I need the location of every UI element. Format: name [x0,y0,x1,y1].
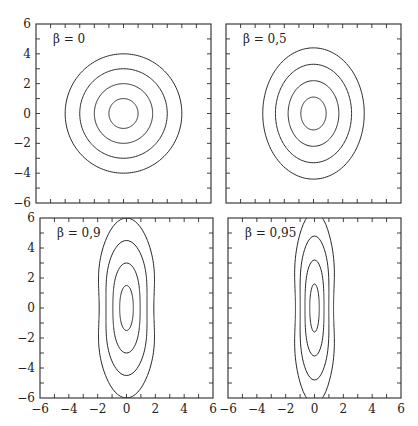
x-tick-label: −6 [31,402,49,416]
y-tick-label: −2 [17,331,35,345]
contour-level-3 [106,241,147,376]
y-tick-label: 6 [23,17,31,31]
x-tick-label: −4 [248,402,266,416]
beta-annotation: β = 0 [53,32,85,46]
x-tick-label: 2 [340,402,348,416]
panel-3: −6−4−20246−6−4−20246β = 0,9 [17,211,217,416]
y-tick-label: 0 [27,301,35,315]
x-tick-label: −2 [89,402,107,416]
contour-level-4 [65,54,182,173]
y-tick-label: 0 [23,107,31,121]
y-tick-label: −4 [17,361,35,375]
y-tick-label: −6 [13,196,31,210]
contour-level-1 [310,284,320,332]
y-tick-label: 2 [27,271,35,285]
contour-level-2 [113,263,140,353]
contour-figure: −6−4−20246β = 0β = 0,5−6−4−20246−6−4−202… [0,0,418,426]
contour-level-3 [275,64,351,162]
beta-annotation: β = 0,95 [245,226,296,240]
contour-level-3 [80,69,168,159]
beta-annotation: β = 0,5 [243,32,287,46]
contour-level-4 [263,48,365,179]
x-tick-label: 4 [180,402,188,416]
y-tick-label: 6 [27,211,35,225]
x-tick-label: 0 [311,402,319,416]
x-tick-label: 0 [123,402,131,416]
contour-level-1 [109,99,138,129]
y-tick-label: 4 [27,241,35,255]
panel-4: −6−4−20246β = 0,95 [219,212,405,416]
x-tick-label: 4 [368,402,376,416]
x-tick-label: −2 [277,402,295,416]
contour-level-4 [99,218,155,398]
x-tick-label: −6 [219,402,237,416]
x-tick-label: 2 [152,402,160,416]
contour-level-3 [300,236,329,380]
contour-level-2 [305,260,324,356]
beta-annotation: β = 0,9 [57,226,101,240]
x-tick-label: −4 [60,402,78,416]
y-tick-label: 2 [23,77,31,91]
x-tick-label: 6 [209,402,217,416]
plot-frame [40,218,213,398]
contour-level-2 [94,84,152,144]
plot-frame [36,24,211,203]
y-tick-label: 4 [23,47,31,61]
plot-frame [226,24,401,203]
contour-level-1 [120,286,134,331]
plot-frame [228,218,401,398]
x-tick-label: 6 [397,402,405,416]
y-tick-label: −2 [13,136,31,150]
y-tick-label: −4 [13,166,31,180]
contour-level-1 [301,97,326,130]
panel-1: −6−4−20246β = 0 [13,17,211,210]
contour-level-2 [288,81,339,147]
panel-2: β = 0,5 [226,24,401,203]
